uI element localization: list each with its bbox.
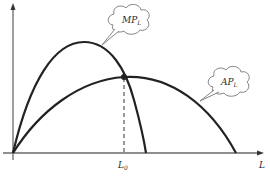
mp-cloud-callout: MPL	[102, 4, 149, 45]
x-axis-arrow-icon	[257, 151, 264, 156]
production-diagram: MPL APL L0 L	[0, 0, 270, 183]
x-axis-label: L	[258, 160, 265, 170]
l0-label: L0	[117, 160, 128, 171]
ap-cloud-callout: APL	[200, 66, 249, 101]
y-axis-arrow-icon	[11, 3, 16, 10]
intersection-point	[121, 74, 127, 80]
mp-curve	[13, 42, 146, 153]
